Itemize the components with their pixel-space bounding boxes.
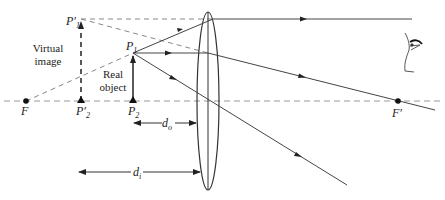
- object-distance-label: do: [162, 116, 172, 132]
- focal-point-right: [395, 98, 401, 104]
- lens-ray-diagram: F F′ P′1 P1 P′2 P2 Virtual image Real ob…: [0, 0, 445, 200]
- ray-2b-arrow-icon: [298, 74, 306, 79]
- focal-left-label: F: [20, 104, 29, 118]
- eye-icon: [405, 33, 422, 72]
- focal-point-left: [23, 98, 29, 104]
- image-distance-label: di: [133, 165, 141, 181]
- object-base-label: P2: [127, 104, 139, 120]
- real-object-label-line2: object: [100, 81, 127, 93]
- ray-2-arrow-icon: [165, 51, 172, 56]
- object-base-marker: [129, 96, 137, 103]
- image-base-marker: [77, 96, 85, 103]
- real-object-label-line1: Real: [103, 68, 123, 80]
- ray-1-arrow-icon: [177, 28, 183, 32]
- focal-right-label: F′: [391, 106, 402, 120]
- image-top-label: P′1: [65, 14, 80, 30]
- virtual-image-label-line2: image: [35, 55, 62, 67]
- ray-1b-arrow-icon: [300, 17, 307, 22]
- image-base-label: P′2: [75, 104, 90, 120]
- object-top-label: P1: [125, 39, 137, 55]
- virtual-image-label-line1: Virtual: [33, 42, 64, 54]
- ray-2-refracted: [208, 53, 435, 110]
